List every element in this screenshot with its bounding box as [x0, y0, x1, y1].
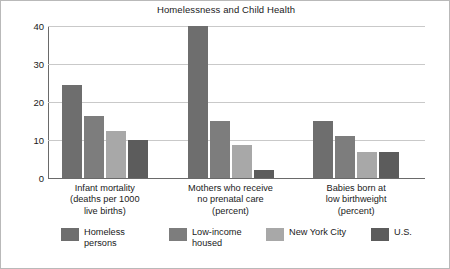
category-label-line: no prenatal care: [161, 194, 301, 205]
bar-slot: [313, 26, 333, 178]
category-label-line: Infant mortality: [35, 183, 175, 194]
bar: [254, 170, 274, 178]
bar: [335, 136, 355, 178]
category-label-line: live births): [35, 206, 175, 217]
y-tick-label-20: 20: [4, 97, 44, 108]
category-label-line: (percent): [286, 206, 426, 217]
category-label-line: Babies born at: [286, 183, 426, 194]
legend-swatch: [61, 228, 79, 241]
bar: [357, 152, 377, 178]
category-label-line: Mothers who receive: [161, 183, 301, 194]
legend-item[interactable]: New York City: [266, 227, 346, 241]
bar-group: [62, 26, 148, 178]
category-label: Infant mortality(deaths per 1000live bir…: [35, 183, 175, 217]
bar-slot: [335, 26, 355, 178]
legend-label: U.S.: [394, 227, 412, 238]
bar: [210, 121, 230, 178]
legend-item[interactable]: Low-income housed: [169, 227, 242, 249]
bar-slot: [84, 26, 104, 178]
legend-item[interactable]: U.S.: [371, 227, 412, 241]
bar-slot: [232, 26, 252, 178]
bar-slot: [62, 26, 82, 178]
chart-figure: Homelessness and Child Health 010203040 …: [0, 0, 450, 269]
legend-label: Low-income housed: [192, 227, 242, 249]
bar: [62, 85, 82, 178]
category-label-line: low birthweight: [286, 194, 426, 205]
chart-title: Homelessness and Child Health: [1, 4, 450, 15]
bar: [106, 131, 126, 178]
chart-legend: Homeless personsLow-income housedNew Yor…: [1, 227, 450, 261]
bar: [379, 152, 399, 178]
bar-group: [188, 26, 274, 178]
bar: [128, 140, 148, 178]
bar-slot: [128, 26, 148, 178]
category-label-line: (deaths per 1000: [35, 194, 175, 205]
bar-slot: [188, 26, 208, 178]
bar-slot: [254, 26, 274, 178]
category-label: Babies born atlow birthweight(percent): [286, 183, 426, 217]
legend-label: Homeless persons: [84, 227, 125, 249]
bar: [84, 116, 104, 178]
bar: [313, 121, 333, 178]
legend-label: New York City: [289, 227, 346, 238]
bar-slot: [106, 26, 126, 178]
y-tick-label-30: 30: [4, 59, 44, 70]
bar: [188, 26, 208, 178]
legend-item[interactable]: Homeless persons: [61, 227, 125, 249]
bar-group: [313, 26, 399, 178]
plot-area: [48, 26, 425, 178]
category-label-line: (percent): [161, 206, 301, 217]
y-tick-label-0: 0: [4, 173, 44, 184]
bar-slot: [357, 26, 377, 178]
bar: [232, 145, 252, 178]
y-tick-label-10: 10: [4, 135, 44, 146]
gridline-0: [48, 178, 425, 179]
legend-swatch: [371, 228, 389, 241]
bar-slot: [379, 26, 399, 178]
legend-swatch: [266, 228, 284, 241]
bar-slot: [210, 26, 230, 178]
legend-swatch: [169, 228, 187, 241]
category-label: Mothers who receiveno prenatal care(perc…: [161, 183, 301, 217]
y-tick-label-40: 40: [4, 21, 44, 32]
